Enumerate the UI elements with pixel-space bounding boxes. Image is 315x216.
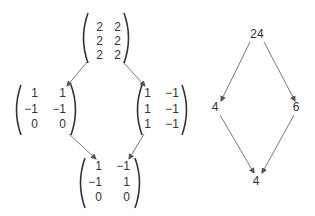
matrix-cell: 1: [131, 103, 151, 115]
matrix-top: 2 2 2 2 2 2: [80, 12, 132, 64]
matrix-cell: 2: [101, 35, 121, 47]
edge-6-to-4: [262, 115, 294, 173]
matrix-cell: 0: [110, 191, 130, 203]
matrix-cell: 2: [83, 35, 103, 47]
matrix-cell: 0: [18, 118, 38, 130]
edge-right-to-bottom-matrix: [129, 134, 144, 159]
matrix-cell: 1: [18, 87, 38, 99]
matrix-cell: −1: [18, 103, 38, 115]
matrix-cell: −1: [159, 87, 179, 99]
matrix-cell: 1: [131, 118, 151, 130]
node-left-value: 4: [203, 101, 227, 113]
matrix-right: 1 −1 1 −1 1 −1: [134, 84, 190, 136]
lattice-diagram: 2 2 2 2 2 2 1 1 −1 −1 0 0 1 −1 1 −1 1 −1: [0, 0, 315, 216]
node-top-value: 24: [245, 28, 269, 40]
matrix-cell: 2: [83, 49, 103, 61]
matrix-cell: −1: [159, 103, 179, 115]
edge-top-to-right-matrix: [123, 62, 145, 86]
matrix-cell: 1: [110, 176, 130, 188]
matrix-cell: −1: [46, 103, 66, 115]
edge-24-to-4: [221, 42, 250, 101]
matrix-cell: −1: [82, 176, 102, 188]
matrix-cell: 2: [101, 49, 121, 61]
edge-4-to-4: [220, 115, 254, 173]
matrix-cell: 1: [46, 87, 66, 99]
matrix-cell: 2: [83, 21, 103, 33]
matrix-cell: 1: [82, 160, 102, 172]
matrix-cell: 2: [101, 21, 121, 33]
matrix-cell: −1: [159, 118, 179, 130]
matrix-cell: 1: [131, 87, 151, 99]
matrix-cell: 0: [46, 118, 66, 130]
edge-top-to-left-matrix: [67, 62, 87, 86]
edge-left-to-bottom-matrix: [69, 134, 96, 159]
matrix-cell: 0: [82, 191, 102, 203]
matrix-cell: −1: [110, 160, 130, 172]
node-right-value: 6: [284, 101, 308, 113]
node-bottom-value: 4: [244, 175, 268, 187]
matrix-bottom: 1 −1 −1 1 0 0: [77, 157, 143, 209]
edge-24-to-6: [264, 42, 295, 101]
matrix-left: 1 1 −1 −1 0 0: [13, 84, 79, 136]
